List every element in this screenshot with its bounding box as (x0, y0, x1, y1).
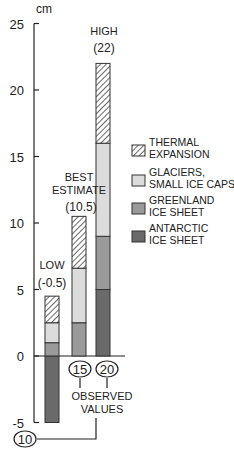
legend-thermal: THERMALEXPANSION (132, 136, 210, 160)
legend-label-line2: EXPANSION (149, 148, 210, 160)
label-high: HIGH (90, 25, 118, 37)
observed-20-value: 20 (100, 362, 114, 377)
legend-antarctic: ANTARCTICICE SHEET (132, 222, 209, 246)
y-tick-label: -5 (12, 416, 24, 431)
legend-greenland: GREENLANDICE SHEET (132, 194, 215, 218)
legend-swatch (132, 203, 145, 214)
legend: THERMALEXPANSIONGLACIERS,SMALL ICE CAPSG… (132, 136, 234, 246)
label-low-value: (-0.5) (38, 276, 67, 290)
y-tick-label: 25 (10, 17, 24, 32)
label-low: LOW (39, 259, 65, 271)
greenland-segment (96, 236, 110, 289)
y-tick-label: 15 (10, 150, 24, 165)
legend-label-line2: SMALL ICE CAPS (149, 178, 234, 190)
legend-swatch (132, 145, 145, 156)
thermal-segment (96, 63, 110, 143)
thermal-segment (72, 216, 86, 268)
legend-label-line1: THERMAL (149, 136, 199, 148)
greenland-segment (45, 343, 59, 356)
legend-label-line1: ANTARCTIC (149, 222, 209, 234)
legend-label-line1: GLACIERS, (149, 166, 205, 178)
legend-swatch (132, 231, 145, 242)
legend-label-line1: GREENLAND (149, 194, 215, 206)
observed-label-line2: VALUES (81, 403, 124, 415)
glaciers-segment (45, 323, 59, 343)
antarctic-segment (45, 356, 59, 423)
y-tick-label: 5 (17, 283, 24, 298)
label-best-value: (10.5) (65, 200, 96, 214)
observed-label-line1: OBSERVED (72, 390, 133, 402)
thermal-segment (45, 296, 59, 323)
greenland-segment (72, 323, 86, 356)
legend-label-line2: ICE SHEET (149, 206, 205, 218)
antarctic-segment (96, 290, 110, 357)
observed-values-annotation: 152010OBSERVEDVALUES (14, 361, 133, 447)
observed-10-value: 10 (18, 432, 32, 447)
label-best: BEST (65, 171, 94, 183)
sea-level-rise-chart: -50510152025cm LOW(-0.5)BESTESTIMATE(10.… (0, 0, 234, 452)
label-high-value: (22) (93, 41, 114, 55)
y-tick-label: 10 (10, 216, 24, 231)
y-axis-unit: cm (36, 2, 52, 16)
legend-swatch (132, 175, 145, 186)
label-estimate: ESTIMATE (52, 184, 106, 196)
y-tick-label: 0 (17, 349, 24, 364)
y-tick-label: 20 (10, 83, 24, 98)
legend-glaciers: GLACIERS,SMALL ICE CAPS (132, 166, 234, 190)
glaciers-segment (72, 268, 86, 323)
observed-15-value: 15 (73, 362, 87, 377)
legend-label-line2: ICE SHEET (149, 234, 205, 246)
